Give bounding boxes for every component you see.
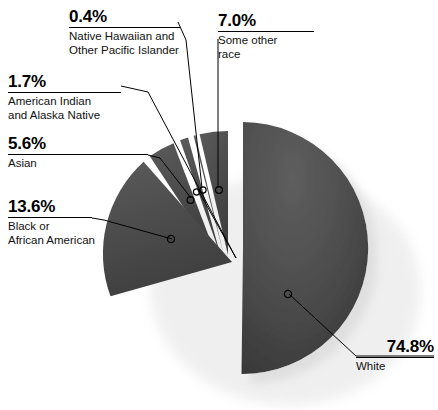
callout-black-african-american-rule — [8, 217, 92, 218]
callout-some-other-race: 7.0% Some other race — [218, 11, 314, 61]
callout-white: 74.8% White — [356, 337, 434, 374]
marker-white — [284, 290, 291, 297]
callout-some-other-race-line1: Some other — [218, 34, 314, 48]
callout-native-hawaiian-percent: 0.4% — [69, 7, 181, 26]
callout-native-hawaiian: 0.4% Native Hawaiian and Other Pacific I… — [69, 7, 181, 57]
callout-american-indian-percent: 1.7% — [8, 72, 121, 91]
callout-black-african-american-line1: Black or — [8, 220, 92, 234]
callout-white-line1: White — [356, 360, 434, 374]
callout-some-other-race-rule — [218, 31, 314, 32]
slice-white — [242, 122, 369, 374]
callout-asian: 5.6% Asian — [8, 134, 148, 171]
callout-american-indian: 1.7% American Indian and Alaska Native — [8, 72, 121, 122]
callout-black-african-american: 13.6% Black or African American — [8, 197, 92, 247]
callout-white-rule — [356, 357, 434, 358]
callout-asian-rule — [8, 154, 148, 155]
marker-native-hawaiian — [200, 187, 206, 193]
marker-some-other-race — [216, 187, 223, 194]
callout-white-percent: 74.8% — [356, 337, 434, 356]
callout-some-other-race-percent: 7.0% — [218, 11, 314, 30]
pie-chart-figure: 0.4% Native Hawaiian and Other Pacific I… — [0, 0, 438, 410]
callout-black-african-american-percent: 13.6% — [8, 197, 92, 216]
callout-native-hawaiian-line2: Other Pacific Islander — [69, 44, 181, 58]
marker-american-indian — [193, 189, 199, 195]
callout-black-african-american-line2: African American — [8, 234, 92, 248]
callout-native-hawaiian-line1: Native Hawaiian and — [69, 30, 181, 44]
callout-asian-line1: Asian — [8, 157, 148, 171]
marker-asian — [187, 197, 194, 204]
callout-native-hawaiian-rule — [69, 27, 181, 28]
callout-american-indian-line2: and Alaska Native — [8, 109, 121, 123]
callout-some-other-race-line2: race — [218, 48, 314, 62]
callout-american-indian-rule — [8, 92, 121, 93]
callout-american-indian-line1: American Indian — [8, 95, 121, 109]
callout-asian-percent: 5.6% — [8, 134, 148, 153]
marker-black-african-american — [167, 235, 174, 242]
